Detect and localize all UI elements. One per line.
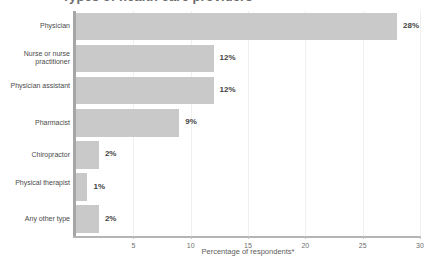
- gridline-25: [363, 11, 364, 236]
- bar: [76, 109, 179, 137]
- bar-value-label: 1%: [93, 182, 105, 191]
- bar: [76, 77, 214, 105]
- bar: [76, 205, 99, 233]
- category-label: Pharmacist: [0, 119, 70, 128]
- x-axis-title: Percentage of respondents*: [76, 247, 420, 256]
- bar-value-label: 28%: [403, 21, 419, 30]
- gridline-30: [420, 11, 421, 236]
- category-label: Physical therapist: [0, 179, 70, 188]
- tickmark-5: [133, 236, 134, 239]
- bar: [76, 173, 87, 201]
- x-axis-line: [73, 236, 420, 238]
- category-label: Physician: [0, 22, 70, 31]
- bar-value-label: 2%: [105, 214, 117, 223]
- gridline-15: [248, 11, 249, 236]
- tickmark-15: [248, 236, 249, 239]
- bar: [76, 45, 214, 73]
- category-label: Any other type: [0, 215, 70, 224]
- tickmark-25: [363, 236, 364, 239]
- plot-area: 28%12%12%9%2%1%2% 51015202530: [76, 11, 420, 236]
- bar-value-label: 12%: [220, 85, 236, 94]
- chart-title: Types of health care providers: [62, 0, 253, 4]
- category-label: Nurse or nurse practitioner: [0, 50, 70, 67]
- bar-value-label: 12%: [220, 53, 236, 62]
- bar: [76, 13, 397, 41]
- bar-value-label: 9%: [185, 117, 197, 126]
- bar: [76, 141, 99, 169]
- category-axis-labels: PhysicianNurse or nurse practitionerPhys…: [0, 11, 70, 236]
- gridline-20: [305, 11, 306, 236]
- category-label: Chiropractor: [0, 151, 70, 160]
- tickmark-10: [191, 236, 192, 239]
- tickmark-30: [420, 236, 421, 239]
- category-label: Physician assistant: [0, 82, 70, 91]
- tickmark-20: [305, 236, 306, 239]
- bar-value-label: 2%: [105, 149, 117, 158]
